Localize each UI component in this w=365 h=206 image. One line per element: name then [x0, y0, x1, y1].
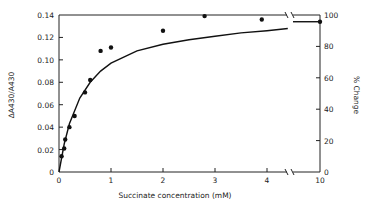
y2-tick-label: 40: [324, 105, 334, 114]
y-tick-label: 0: [49, 168, 54, 177]
y-tick-label: 0.08: [37, 78, 54, 87]
x-tick-label: 3: [213, 176, 218, 185]
y2-tick-label: 20: [324, 137, 334, 146]
y2-axis-label: % Change: [352, 76, 361, 115]
data-point: [202, 14, 206, 18]
data-point: [318, 20, 322, 24]
y-tick-label: 0.04: [37, 123, 54, 132]
y-tick-label: 0.10: [37, 56, 54, 65]
x-tick-label: 10: [315, 176, 325, 185]
y-tick-label: 0.14: [37, 11, 54, 20]
data-point: [109, 45, 113, 49]
x-tick-label: 0: [57, 176, 62, 185]
data-point: [260, 17, 264, 21]
y2-tick-label: 100: [324, 11, 339, 20]
data-point: [62, 146, 66, 150]
x-tick-label: 2: [161, 176, 166, 185]
chart: 00.020.040.060.080.100.120.14 0204060801…: [0, 0, 365, 206]
y-tick-label: 0.02: [37, 146, 54, 155]
y-tick-label: 0.12: [37, 33, 54, 42]
data-points: [59, 14, 322, 159]
data-point: [161, 29, 165, 33]
data-point: [59, 154, 63, 158]
data-point: [63, 137, 67, 141]
data-point: [67, 125, 71, 129]
x-axis-label: Succinate concentration (mM): [118, 191, 231, 200]
y-axis-label: ΔA430/A430: [7, 72, 16, 119]
x-tick-label: 1: [109, 176, 114, 185]
y2-tick-label: 60: [324, 74, 334, 83]
data-point: [83, 90, 87, 94]
data-point: [98, 49, 102, 53]
fit-curve: [59, 22, 320, 172]
y-tick-label: 0.06: [37, 101, 54, 110]
data-point: [72, 114, 76, 118]
x-tick-label: 4: [265, 176, 270, 185]
right-y-axis: 020406080100: [316, 11, 339, 177]
y2-tick-label: 80: [324, 42, 334, 51]
x-axis: 0123410: [57, 168, 325, 185]
data-point: [88, 78, 92, 82]
fit-curve-line: [59, 29, 288, 173]
plot-frame: [59, 12, 320, 175]
